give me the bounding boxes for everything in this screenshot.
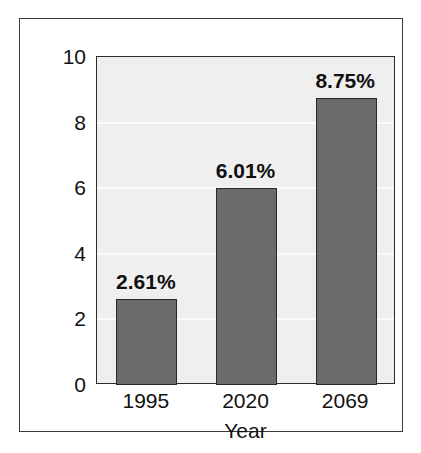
- bar-value-label: 8.75%: [315, 70, 375, 91]
- chart-figure: 0246810 199520202069 2.61%6.01%8.75% Yea…: [0, 0, 421, 453]
- y-axis-tick-label: 2: [74, 308, 86, 329]
- figure-frame: 0246810 199520202069 2.61%6.01%8.75% Yea…: [19, 18, 403, 432]
- bar: [116, 299, 177, 385]
- x-axis-title: Year: [96, 420, 395, 441]
- plot-area: [96, 56, 395, 384]
- y-axis-tick-label: 6: [74, 177, 86, 198]
- bar-value-label: 6.01%: [216, 160, 276, 181]
- y-axis-tick-labels: 0246810: [50, 56, 92, 384]
- y-axis-tick-label: 0: [74, 374, 86, 395]
- y-axis-tick-label: 10: [63, 46, 86, 67]
- x-axis-tick-label: 1995: [122, 390, 169, 411]
- y-axis-tick-label: 4: [74, 242, 86, 263]
- x-axis-tick-label: 2020: [222, 390, 269, 411]
- x-axis-tick-label: 2069: [322, 390, 369, 411]
- bar: [216, 188, 277, 385]
- y-axis-tick-label: 8: [74, 111, 86, 132]
- bar-value-label: 2.61%: [116, 271, 176, 292]
- bar: [316, 98, 377, 385]
